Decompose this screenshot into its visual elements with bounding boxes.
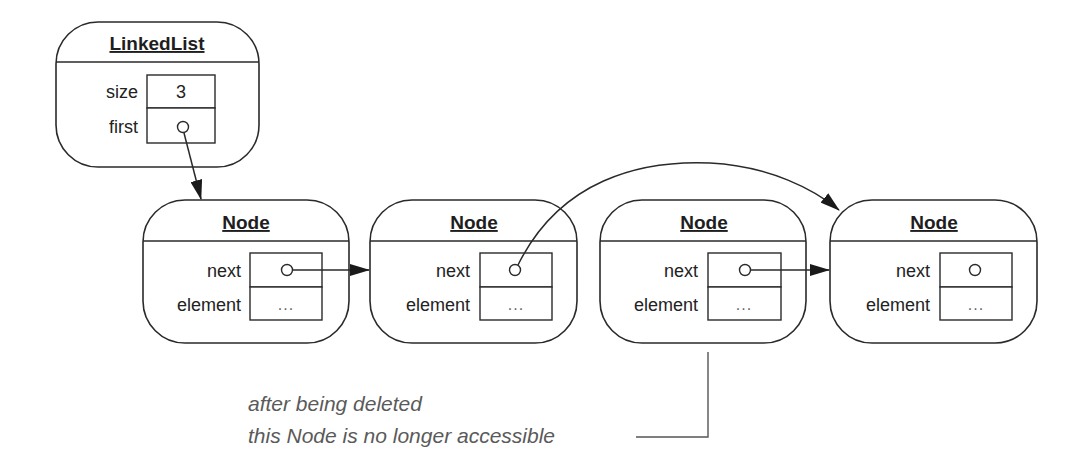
field-label-element: element [634,295,698,315]
annotation-line-2: this Node is no longer accessible [248,424,555,447]
pointer-dot-icon [510,265,521,276]
node-4: Node next element ... [830,200,1037,343]
pointer-dot-icon [282,265,293,276]
field-label-next: next [436,261,470,281]
field-label-next: next [207,261,241,281]
field-label-element: element [866,295,930,315]
field-label-first: first [109,117,138,137]
element-ellipsis: ... [508,296,524,313]
node-title: Node [680,212,728,233]
node-title: Node [450,212,498,233]
linked-list-diagram: LinkedList size 3 first Node next elemen… [0,0,1091,471]
element-ellipsis: ... [736,296,752,313]
element-ellipsis: ... [278,296,294,313]
field-label-element: element [177,295,241,315]
pointer-dot-icon [178,122,189,133]
node-title: Node [910,212,958,233]
node-1: Node next element ... [143,200,349,343]
null-pointer-dot-icon [970,265,981,276]
annotation-line-1: after being deleted [248,392,423,415]
node-title: Node [222,212,270,233]
field-label-next: next [664,261,698,281]
node-3-deleted: Node next element ... [600,200,806,343]
element-ellipsis: ... [968,296,984,313]
field-label-next: next [896,261,930,281]
deleted-node-annotation: after being deleted this Node is no long… [248,352,708,447]
linkedlist-title: LinkedList [109,33,205,54]
linkedlist-object: LinkedList size 3 first [56,22,259,167]
node-2: Node next element ... [370,200,577,343]
field-label-size: size [106,82,138,102]
pointer-dot-icon [740,265,751,276]
field-label-element: element [406,295,470,315]
annotation-leader-line [636,352,708,437]
field-value-size: 3 [176,82,186,102]
